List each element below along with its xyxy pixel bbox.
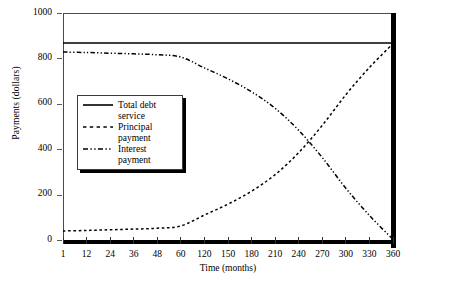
legend-label-principal-payment: Principal payment: [118, 122, 152, 143]
legend-key-dotted-icon: [83, 122, 113, 135]
y-axis-tick-mark: [57, 13, 62, 14]
legend-label-interest-payment: Interest payment: [118, 144, 151, 165]
legend-key-dash-dot-dot-icon: [83, 144, 113, 157]
legend-item-total-debt-service: Total debt service: [83, 100, 178, 121]
x-axis-tick-label: 360: [377, 249, 409, 259]
y-axis-label: Payments (dollars): [11, 23, 21, 183]
x-axis-label: Time (months): [63, 263, 393, 273]
legend-item-principal-payment: Principal payment: [83, 122, 178, 143]
y-axis-tick-label: 800: [38, 52, 52, 62]
chart-legend: Total debt service Principal payment Int…: [77, 95, 183, 170]
y-axis-tick-label: 600: [38, 97, 52, 107]
amortization-chart: Payments (dollars) 10008006004002000 112…: [0, 0, 453, 282]
y-axis-tick-label: 0: [47, 234, 52, 244]
y-axis-tick-mark: [57, 195, 62, 196]
y-axis-tick-label: 200: [38, 188, 52, 198]
y-axis-tick-label: 400: [38, 143, 52, 153]
y-axis-tick-mark: [57, 58, 62, 59]
y-axis-tick-mark: [57, 149, 62, 150]
legend-item-interest-payment: Interest payment: [83, 144, 178, 165]
legend-key-solid-icon: [83, 100, 113, 113]
y-axis-tick-mark: [57, 240, 62, 241]
y-axis-tick-mark: [57, 104, 62, 105]
y-axis-tick-label: 1000: [33, 7, 52, 17]
legend-label-total-debt-service: Total debt service: [118, 100, 156, 121]
